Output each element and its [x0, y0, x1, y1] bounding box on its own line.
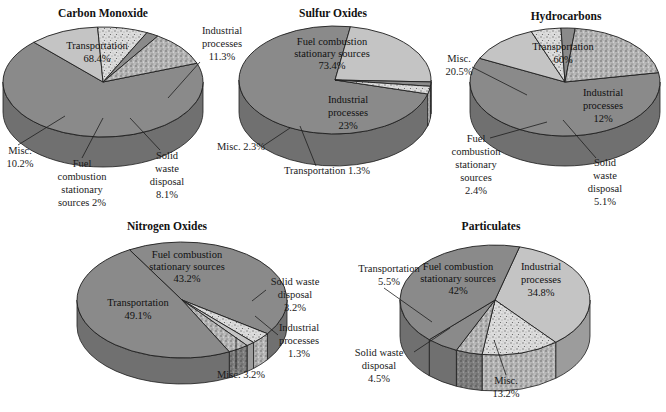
label-hc-solid-2: waste	[593, 170, 617, 181]
label-co-fuel-4: sources 2%	[58, 197, 106, 208]
label-so-fuel-1: Fuel combustion	[297, 36, 368, 47]
label-co-solid-1: Solid	[156, 150, 179, 161]
pie-side-industrial-processes	[247, 342, 254, 371]
label-so-industrial-2: processes	[328, 107, 368, 118]
label-no-transportation: Transportation	[107, 297, 169, 308]
label-co-solid-2: waste	[155, 163, 179, 174]
label-no-transportation-pct: 49.1%	[124, 310, 151, 321]
label-so-transportation: Transportation 1.3%	[284, 165, 370, 176]
label-hc-fuel-pct: 2.4%	[465, 185, 487, 196]
label-so-industrial-pct: 23%	[338, 120, 358, 131]
chart-title-sulfur-oxides: Sulfur Oxides	[299, 7, 367, 19]
label-co-industrial-2: processes	[202, 38, 242, 49]
label-hc-industrial-1: Industrial	[583, 87, 623, 98]
label-no-misc: Misc. 3.2%	[217, 369, 265, 380]
label-co-transportation-pct: 68.4%	[83, 53, 110, 64]
label-co-industrial-1: Industrial	[202, 25, 242, 36]
label-co-solid-pct: 8.1%	[156, 189, 178, 200]
label-no-industrial-pct: 1.3%	[288, 348, 310, 359]
label-pm-industrial-2: processes	[521, 274, 561, 285]
chart-title-nitrogen-oxides: Nitrogen Oxides	[127, 220, 207, 233]
label-hc-transportation-pct: 60%	[553, 54, 573, 65]
label-so-misc: Misc. 2.3%	[217, 141, 265, 152]
label-co-misc-pct: 10.2%	[6, 158, 33, 169]
label-no-industrial-2: processes	[279, 335, 319, 346]
label-no-industrial-1: Industrial	[279, 322, 319, 333]
label-pm-fuel-pct: 42%	[448, 285, 468, 296]
pie-side-solid-waste-disposal	[456, 350, 482, 390]
label-hc-industrial-pct: 12%	[593, 113, 613, 124]
label-so-industrial-1: Industrial	[328, 94, 368, 105]
label-pm-transportation: Transportation	[358, 263, 420, 274]
label-hc-industrial-2: processes	[583, 100, 623, 111]
label-no-fuel-pct: 43.2%	[173, 273, 200, 284]
label-co-transportation: Transportation	[66, 40, 128, 51]
chart-title-carbon-monoxide: Carbon Monoxide	[58, 7, 148, 19]
chart-title-particulates: Particulates	[462, 220, 521, 232]
label-co-fuel-3: stationary	[61, 184, 103, 195]
label-pm-solid-1: Solid waste	[355, 347, 404, 358]
label-co-fuel-1: Fuel	[73, 158, 92, 169]
label-pm-transportation-pct: 5.5%	[378, 276, 400, 287]
label-hc-fuel-1: Fuel	[467, 133, 486, 144]
chart-title-hydrocarbons: Hydrocarbons	[531, 10, 602, 23]
label-hc-transportation: Transportation	[532, 41, 594, 52]
label-hc-fuel-3: stationary	[455, 159, 497, 170]
label-hc-fuel-2: combustion	[452, 146, 502, 157]
pollution-sources-pie-charts: Carbon Monoxide Transportation 68.4% Ind…	[0, 0, 666, 412]
label-co-fuel-2: combustion	[58, 171, 108, 182]
label-hc-solid-1: Solid	[594, 157, 617, 168]
label-pm-fuel-2: stationary sources	[420, 273, 496, 284]
label-no-solid-pct: 3.2%	[284, 302, 306, 313]
label-hc-solid-3: disposal	[588, 183, 623, 194]
label-pm-solid-pct: 4.5%	[368, 373, 390, 384]
label-co-solid-3: disposal	[150, 176, 185, 187]
label-pm-misc: Misc.	[494, 375, 518, 386]
label-pm-solid-2: disposal	[362, 360, 397, 371]
label-hc-misc-pct: 20.5%	[445, 66, 472, 77]
label-hc-solid-pct: 5.1%	[594, 196, 616, 207]
label-pm-misc-pct: 13.2%	[492, 388, 519, 399]
label-no-fuel-2: stationary sources	[149, 261, 225, 272]
label-no-solid-1: Solid waste	[271, 276, 320, 287]
label-co-misc: Misc.	[8, 145, 32, 156]
pie-slice-misc-	[565, 28, 659, 82]
label-no-fuel-1: Fuel combustion	[152, 249, 223, 260]
label-hc-fuel-4: sources	[460, 172, 492, 183]
label-no-solid-2: disposal	[278, 289, 313, 300]
label-pm-fuel-1: Fuel combustion	[423, 261, 494, 272]
label-co-industrial-pct: 11.3%	[209, 51, 236, 62]
label-hc-misc: Misc.	[447, 53, 471, 64]
label-so-fuel-2: stationary sources	[294, 48, 370, 59]
label-pm-industrial-1: Industrial	[521, 261, 561, 272]
label-pm-industrial-pct: 34.8%	[527, 287, 554, 298]
label-so-fuel-pct: 73.4%	[318, 60, 345, 71]
